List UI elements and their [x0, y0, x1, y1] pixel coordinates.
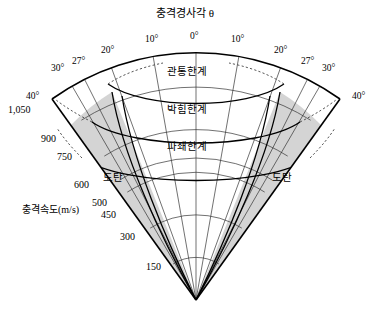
angle-tick-left-27: 27°: [72, 57, 85, 67]
velocity-tick-1050: 1,050: [8, 105, 31, 115]
angle-tick-left-40: 40°: [26, 92, 39, 102]
angle-tick-right-40: 40°: [352, 92, 365, 102]
y-axis-label: 충격속도(m/s): [22, 205, 79, 215]
velocity-tick-300: 300: [120, 232, 135, 242]
zone-label-fracture: 파쇄한계: [167, 141, 207, 152]
velocity-tick-900: 900: [41, 134, 56, 144]
velocity-tick-150: 150: [146, 262, 161, 272]
angle-tick-0: 0°: [190, 32, 199, 42]
angle-tick-right-10: 10°: [231, 35, 244, 45]
angle-tick-left-20: 20°: [101, 46, 114, 56]
angle-tick-left-10: 10°: [145, 35, 158, 45]
velocity-tick-500: 500: [92, 198, 107, 208]
ricochet-label-left: 도탄: [103, 172, 123, 183]
ricochet-region-right: [196, 92, 321, 300]
zone-label-embedment: 박힘한계: [167, 104, 207, 115]
velocity-tick-600: 600: [74, 180, 89, 190]
angle-tick-right-20: 20°: [274, 46, 287, 56]
angle-tick-right-30: 30°: [322, 64, 335, 74]
zone-label-penetration: 관통한계: [167, 66, 207, 77]
chart-title: 충격경사각 θ: [156, 8, 214, 19]
polar-fan-chart: 충격경사각 θ 0° 10° 10° 20° 20° 27° 27° 30° 3…: [0, 0, 387, 313]
velocity-tick-750: 750: [57, 152, 72, 162]
velocity-tick-450: 450: [101, 210, 116, 220]
angle-tick-left-30: 30°: [51, 64, 64, 74]
ricochet-label-right: 도탄: [272, 172, 292, 183]
ricochet-region-left: [71, 92, 196, 300]
angle-tick-right-27: 27°: [301, 57, 314, 67]
